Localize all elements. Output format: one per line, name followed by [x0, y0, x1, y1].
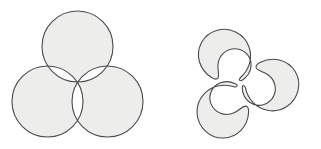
figures-svg — [0, 0, 321, 149]
lobe-top — [198, 29, 251, 80]
lobe-bottom-right — [187, 76, 258, 147]
three-interlocking-lobes-figure — [187, 29, 308, 147]
circles-evenodd-fill — [12, 11, 143, 137]
figure-canvas: Three overlapping circles and three inte… — [0, 0, 321, 149]
circles-fill-group — [12, 11, 143, 137]
three-overlapping-circles-figure — [12, 11, 143, 137]
lobe-bottom-right-shape — [187, 76, 258, 147]
lobe-top-shape — [198, 29, 251, 80]
